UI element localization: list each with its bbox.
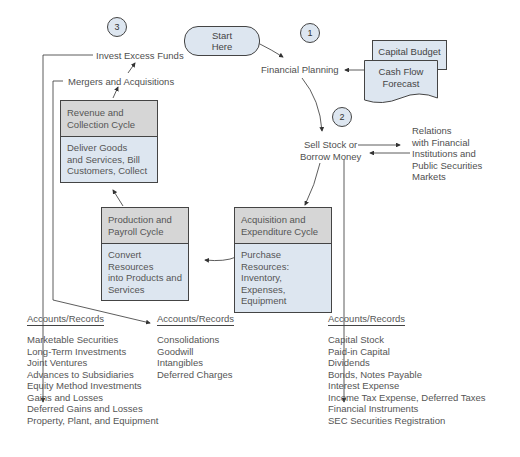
cycle-title-line: Revenue and xyxy=(67,107,151,119)
accounts-title: Accounts/Records xyxy=(157,313,234,326)
account-item: Joint Ventures xyxy=(27,357,158,369)
account-item: Dividends xyxy=(328,357,486,369)
account-item: Long-Term Investments xyxy=(27,346,158,358)
relations-line: Public Securities xyxy=(412,160,482,172)
accounts-records-investments: Accounts/Records Marketable Securities L… xyxy=(27,308,158,426)
account-item: Equity Method Investments xyxy=(27,380,158,392)
account-item: Property, Plant, and Equipment xyxy=(27,415,158,427)
account-item: Intangibles xyxy=(157,357,234,369)
account-item: Deferred Charges xyxy=(157,369,234,381)
accounts-records-financing: Accounts/Records Capital Stock Paid-in C… xyxy=(328,308,486,426)
step-2-badge: 2 xyxy=(332,107,352,127)
accounts-list: Consolidations Goodwill Intangibles Defe… xyxy=(157,334,234,380)
relations-line: Relations xyxy=(412,125,482,137)
account-item: Interest Expense xyxy=(328,380,486,392)
financial-planning-label: Financial Planning xyxy=(261,64,339,76)
cycle-body-line: Inventory, Expenses, xyxy=(241,272,325,295)
mergers-acquisitions-label: Mergers and Acquisitions xyxy=(68,76,174,88)
cycle-description: Deliver Goods and Services, Bill Custome… xyxy=(61,137,157,182)
cycle-body-line: Customers, Collect xyxy=(67,165,151,177)
step-3-badge: 3 xyxy=(107,17,127,37)
cycle-description: Purchase Resources: Inventory, Expenses,… xyxy=(235,244,331,312)
account-item: Gains and Losses xyxy=(27,392,158,404)
account-item: Deferred Gains and Losses xyxy=(27,403,158,415)
cycle-body-line: into Products and xyxy=(108,272,182,284)
start-label-line2: Here xyxy=(212,41,233,52)
account-item: Goodwill xyxy=(157,346,234,358)
relations-line: Markets xyxy=(412,171,482,183)
production-payroll-cycle-box: Production and Payroll Cycle Convert Res… xyxy=(101,207,189,301)
accounts-title: Accounts/Records xyxy=(328,313,405,326)
cycle-body-line: Purchase Resources: xyxy=(241,249,325,272)
cycle-title: Acquisition and Expenditure Cycle xyxy=(235,208,331,244)
cycle-title-line: Expenditure Cycle xyxy=(241,226,325,238)
relations-line: Institutions and xyxy=(412,148,482,160)
cycle-title-line: Payroll Cycle xyxy=(108,226,182,238)
account-item: SEC Securities Registration xyxy=(328,415,486,427)
accounts-list: Marketable Securities Long-Term Investme… xyxy=(27,334,158,426)
cycle-title-line: Production and xyxy=(108,214,182,226)
accounts-records-mergers: Accounts/Records Consolidations Goodwill… xyxy=(157,308,234,380)
cycle-body-line: Deliver Goods xyxy=(67,142,151,154)
step-1-badge: 1 xyxy=(300,23,320,43)
capital-budget-label: Capital Budget xyxy=(378,46,440,57)
cycle-description: Convert Resources into Products and Serv… xyxy=(102,244,188,300)
sell-stock-line2: Borrow Money xyxy=(300,151,361,163)
account-item: Consolidations xyxy=(157,334,234,346)
account-item: Financial Instruments xyxy=(328,403,486,415)
cash-flow-line2: Forecast xyxy=(364,78,438,90)
cycle-body-line: Equipment xyxy=(241,295,325,307)
sell-stock-label: Sell Stock or Borrow Money xyxy=(300,139,361,162)
cycle-title-line: Collection Cycle xyxy=(67,119,151,131)
cash-flow-forecast-label: Cash Flow Forecast xyxy=(364,66,438,89)
account-item: Marketable Securities xyxy=(27,334,158,346)
cycle-body-line: and Services, Bill xyxy=(67,154,151,166)
accounts-list: Capital Stock Paid-in Capital Dividends … xyxy=(328,334,486,426)
account-item: Advances to Subsidiaries xyxy=(27,369,158,381)
invest-excess-funds-label: Invest Excess Funds xyxy=(96,50,184,62)
relations-line: with Financial xyxy=(412,137,482,149)
accounts-title: Accounts/Records xyxy=(27,313,104,326)
revenue-collection-cycle-box: Revenue and Collection Cycle Deliver Goo… xyxy=(60,100,158,183)
account-item: Income Tax Expense, Deferred Taxes xyxy=(328,392,486,404)
relations-label: Relations with Financial Institutions an… xyxy=(412,125,482,183)
acquisition-expenditure-cycle-box: Acquisition and Expenditure Cycle Purcha… xyxy=(234,207,332,313)
cycle-title: Revenue and Collection Cycle xyxy=(61,101,157,137)
start-here-terminal: Start Here xyxy=(184,26,260,56)
start-label-line1: Start xyxy=(212,30,233,41)
account-item: Capital Stock xyxy=(328,334,486,346)
cycle-title: Production and Payroll Cycle xyxy=(102,208,188,244)
account-item: Bonds, Notes Payable xyxy=(328,369,486,381)
cycle-title-line: Acquisition and xyxy=(241,214,325,226)
cycle-body-line: Services xyxy=(108,284,182,296)
account-item: Paid-in Capital xyxy=(328,346,486,358)
sell-stock-line1: Sell Stock or xyxy=(300,139,361,151)
cycle-body-line: Convert Resources xyxy=(108,249,182,272)
cash-flow-line1: Cash Flow xyxy=(364,66,438,78)
